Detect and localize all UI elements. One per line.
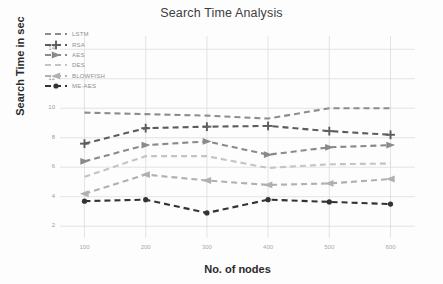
legend-label: DES [68,62,85,68]
x-tick-label: 200 [131,244,161,250]
y-axis-label: Search Time in sec [14,6,26,126]
legend-item-me-aes[interactable]: ME-AES [44,81,154,91]
y-tick-label: 4 [29,193,55,199]
data-point-marker [80,139,89,148]
legend-label: BLOWFISH [68,73,105,79]
legend-marker-icon [44,81,68,91]
data-point-marker [266,197,271,202]
legend-marker-icon [44,60,68,70]
data-point-marker [52,52,61,59]
data-point-marker [202,122,211,131]
series-line-aes [84,141,390,161]
y-tick-label: 8 [29,134,55,140]
legend-item-rsa[interactable]: RSA [44,39,154,49]
data-point-marker [53,84,58,89]
legend-marker-icon [44,50,68,60]
legend-label: ME-AES [68,83,96,89]
y-tick-label: 2 [29,222,55,228]
data-point-marker [52,40,61,49]
data-series-layer [80,108,395,215]
legend-label: AES [68,52,85,58]
chart-figure: Search Time Analysis Search Time in sec … [0,0,443,284]
x-axis-label: No. of nodes [60,263,415,275]
chart-title: Search Time Analysis [0,6,443,20]
data-point-marker [204,210,209,215]
data-point-marker [82,199,87,204]
chart-legend: LSTMRSAAESDESBLOWFISHME-AES [44,29,154,91]
data-point-marker [141,124,150,133]
data-point-marker [264,122,273,131]
legend-item-aes[interactable]: AES [44,50,154,60]
x-tick-label: 100 [69,244,99,250]
legend-item-des[interactable]: DES [44,60,154,70]
legend-marker-icon [44,71,68,81]
legend-marker-icon [44,29,68,39]
series-line-des [84,156,390,177]
series-line-rsa [84,126,390,144]
legend-label: LSTM [68,31,89,37]
legend-marker-icon [44,40,68,50]
y-tick-label: 6 [29,163,55,169]
series-line-lstm [84,108,390,118]
data-point-marker [325,127,334,136]
x-tick-label: 400 [253,244,283,250]
x-tick-label: 300 [192,244,222,250]
y-tick-label: 10 [29,104,55,110]
x-tick-label: 500 [314,244,344,250]
data-point-marker [327,199,332,204]
legend-label: RSA [68,42,85,48]
data-point-marker [388,201,393,206]
legend-item-lstm[interactable]: LSTM [44,29,154,39]
series-line-me-aes [84,200,390,213]
x-tick-label: 600 [376,244,406,250]
data-point-marker [143,197,148,202]
legend-item-blowfish[interactable]: BLOWFISH [44,71,154,81]
series-line-blowfish [84,175,390,194]
data-point-marker [51,72,60,79]
